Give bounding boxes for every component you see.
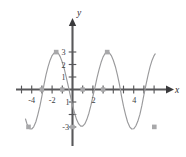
y-tick-label-pos1: 1 [61, 73, 65, 82]
graph-figure: y x -4 -2 2 4 3 2 1 1 -3 [0, 0, 186, 157]
marker-right-maximum [105, 50, 110, 55]
x-tick-label-neg4: -4 [28, 96, 35, 105]
marker-right-zero-inner [81, 87, 85, 91]
marker-left-zero-outer [40, 87, 44, 91]
coordinate-plane: y x -4 -2 2 4 3 2 1 1 -3 [0, 0, 186, 157]
marker-right-zero-outer [101, 87, 105, 91]
marker-left-endpoint [26, 125, 31, 130]
marker-left-maximum [54, 50, 59, 55]
y-axis-label: y [76, 8, 82, 18]
x-axis-label: x [174, 85, 180, 95]
y-tick-label-neg3: -3 [62, 123, 69, 132]
y-axis-arrow-icon [69, 18, 76, 26]
y-tick-label-pos3: 3 [61, 48, 65, 57]
marker-right-endpoint [152, 125, 157, 130]
x-tick-label-pos2: 2 [91, 96, 95, 105]
y-tick-label-neg1: 1 [65, 98, 69, 107]
marker-minimum-origin [70, 125, 74, 129]
marker-left-zero-inner [60, 87, 64, 91]
axis-group [16, 18, 174, 146]
x-axis-arrow-icon [166, 86, 174, 94]
x-tick-label-pos4: 4 [132, 96, 136, 105]
y-tick-label-pos2: 2 [61, 61, 65, 70]
x-tick-label-neg2: -2 [49, 96, 56, 105]
